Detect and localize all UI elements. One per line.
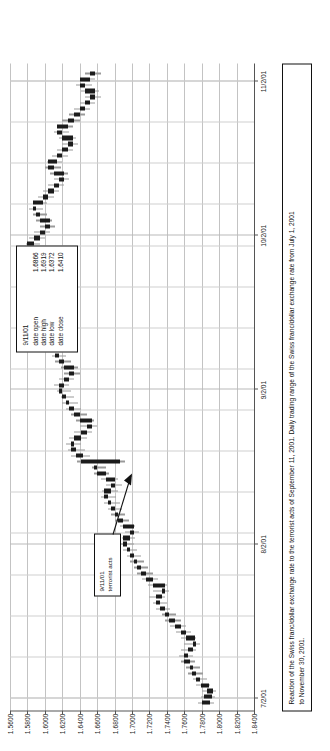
event-arrow-icon	[112, 463, 138, 535]
gridline-vertical-minor	[10, 203, 254, 204]
gridline-vertical-minor	[10, 656, 254, 657]
bar-body	[146, 577, 153, 581]
bar-body	[74, 112, 79, 116]
ohlc-row-high: date high 1.6919	[40, 252, 48, 345]
x-axis-tick-label: 9/2/01	[260, 380, 267, 398]
bar-body	[90, 71, 95, 75]
bar-range	[130, 560, 144, 561]
gridline-vertical-minor	[10, 450, 254, 451]
y-axis-tick-mark	[219, 710, 220, 714]
bar-body	[130, 553, 133, 557]
ohlc-callout-date: 9/11/01	[22, 252, 29, 345]
y-axis-tick-mark	[115, 710, 116, 714]
bar-body	[184, 659, 189, 663]
gridline-horizontal	[27, 63, 28, 710]
gridline-horizontal	[149, 63, 150, 710]
ohlc-key-open: date open	[32, 309, 40, 345]
bar-body	[68, 118, 75, 122]
bar-body	[184, 653, 187, 657]
bar-body	[165, 612, 168, 616]
y-axis-tick-mark	[45, 710, 46, 714]
y-axis-tick-mark	[10, 710, 11, 714]
bar-body	[190, 665, 193, 669]
bar-body	[66, 400, 69, 404]
bar-range	[127, 555, 141, 556]
bar-range	[52, 355, 66, 356]
gridline-vertical-minor	[10, 80, 254, 81]
event-callout-text: terrorist acts	[106, 538, 114, 591]
ohlc-row-open: date open 1.6866	[32, 252, 40, 345]
gridline-vertical-minor	[10, 162, 254, 163]
bar-body	[69, 406, 74, 410]
bar-body	[62, 147, 67, 151]
bar-body	[36, 212, 39, 216]
y-axis-tick-mark	[237, 710, 238, 714]
bar-body	[71, 447, 76, 451]
bar-range	[186, 666, 200, 667]
bar-body	[48, 165, 53, 169]
figure-caption: Reaction of the Swiss franc/dollar excha…	[282, 63, 312, 711]
x-axis-tick-mark	[254, 389, 258, 390]
bar-body	[80, 106, 85, 110]
gridline-horizontal	[202, 63, 203, 710]
x-axis-tick-label: 11/2/01	[260, 70, 267, 92]
bar-body	[64, 365, 74, 369]
bar-body	[201, 683, 209, 687]
bar-body	[48, 159, 57, 163]
gridline-horizontal	[115, 63, 116, 710]
bar-body	[62, 136, 72, 140]
ohlc-callout-box: 9/11/01 date open 1.6866 date high 1.691…	[16, 245, 78, 352]
bar-body	[127, 547, 130, 551]
bar-body	[181, 630, 186, 634]
bar-body	[34, 236, 39, 240]
bar-body	[169, 618, 175, 622]
gridline-vertical-minor	[10, 697, 254, 698]
x-axis-tick-label: 8/2/01	[260, 535, 267, 553]
gridline-horizontal	[97, 63, 98, 710]
bar-body	[40, 230, 45, 234]
y-axis-tick-mark	[254, 710, 255, 714]
bar-body	[85, 88, 95, 92]
bar-body	[74, 435, 81, 439]
bar-range	[62, 402, 78, 403]
gridline-vertical	[10, 234, 254, 235]
gridline-vertical-minor	[10, 574, 254, 575]
bar-range	[33, 213, 47, 214]
bar-body	[87, 424, 92, 428]
ohlc-value-high: 1.6919	[40, 252, 48, 272]
bar-body	[59, 359, 64, 363]
gridline-vertical-minor	[10, 409, 254, 410]
gridline-vertical-minor	[10, 615, 254, 616]
gridline-vertical	[10, 389, 254, 390]
caption-line-1: Reaction of the Swiss franc/dollar excha…	[287, 70, 297, 704]
bar-body	[204, 694, 212, 698]
bar-body	[64, 377, 69, 381]
bar-body	[141, 571, 146, 575]
bar-body	[123, 541, 126, 545]
rotated-figure-canvas: 1.84001.82001.80001.78001.76001.74001.72…	[0, 0, 330, 751]
bar-body	[193, 641, 196, 645]
ohlc-key-low: date low	[48, 313, 56, 345]
y-axis-tick-mark	[62, 710, 63, 714]
gridline-horizontal	[237, 63, 238, 710]
bar-range	[120, 543, 134, 544]
ohlc-key-close: date close	[57, 308, 65, 345]
plot-area: 1.84001.82001.80001.78001.76001.74001.72…	[10, 63, 255, 711]
bar-body	[175, 624, 181, 628]
bar-body	[80, 77, 90, 81]
bar-body	[54, 171, 64, 175]
y-axis-tick-mark	[149, 710, 150, 714]
bar-body	[104, 494, 107, 498]
ohlc-key-high: date high	[40, 311, 48, 345]
y-axis-tick-mark	[202, 710, 203, 714]
ohlc-value-open: 1.6866	[32, 252, 40, 272]
y-axis-tick-mark	[80, 710, 81, 714]
bar-body	[207, 688, 213, 692]
bar-body	[80, 83, 85, 87]
bar-body	[80, 418, 92, 422]
bar-range	[134, 566, 148, 567]
bar-body	[54, 183, 59, 187]
bar-body	[40, 218, 50, 222]
bar-body	[59, 177, 64, 181]
x-axis-tick-mark	[254, 543, 258, 544]
